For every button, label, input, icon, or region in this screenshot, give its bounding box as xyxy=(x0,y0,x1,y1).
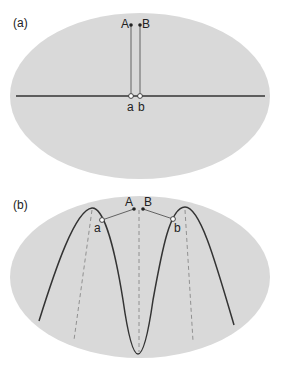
panel-b-label-b: b xyxy=(174,221,181,235)
panel-a-label-B: B xyxy=(142,17,150,31)
panel-b-label: (b) xyxy=(13,198,28,212)
panel-a-label-b: b xyxy=(138,100,145,114)
panel-a-label-a: a xyxy=(127,100,134,114)
panel-b-label-B: B xyxy=(144,195,152,209)
panel-b: (b) A B a b xyxy=(10,195,270,358)
panel-a-label: (a) xyxy=(13,16,28,30)
panel-b-label-a: a xyxy=(94,221,101,235)
panel-a-point-a xyxy=(129,94,134,99)
panel-a-label-A: A xyxy=(121,17,129,31)
panel-b-ellipse xyxy=(10,196,270,358)
panel-a-point-A xyxy=(129,23,133,27)
panel-a-point-b xyxy=(138,94,143,99)
panel-b-label-A: A xyxy=(125,195,133,209)
panel-a: (a) A B a b xyxy=(10,13,270,179)
diagram-canvas: (a) A B a b (b) A B a b xyxy=(0,0,283,371)
